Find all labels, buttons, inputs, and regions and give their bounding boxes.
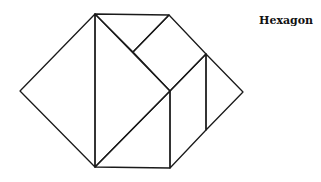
big-triangle [95,14,170,167]
left-triangle [20,14,95,167]
hexagon-tangram-diagram [0,0,321,182]
top-small-triangle [95,14,169,52]
right-triangle [206,54,243,130]
diagram-title: Hexagon [259,14,313,27]
square [133,15,206,91]
lower-triangle [95,91,170,168]
parallelogram [170,54,206,168]
